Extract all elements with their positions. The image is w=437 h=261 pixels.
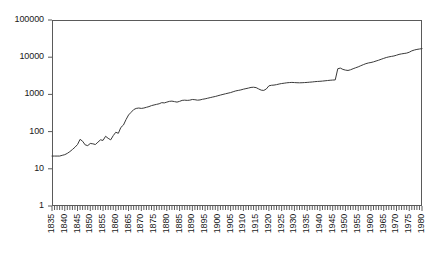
x-tick-label: 1865 bbox=[124, 214, 133, 233]
y-tick-label: 10000 bbox=[0, 52, 44, 61]
x-tick-label: 1970 bbox=[391, 214, 400, 233]
x-tick-label: 1845 bbox=[73, 214, 82, 233]
x-tick-label: 1960 bbox=[366, 214, 375, 233]
x-tick-label: 1900 bbox=[213, 214, 222, 233]
x-tick-label: 1935 bbox=[302, 214, 311, 233]
x-tick-label: 1870 bbox=[136, 214, 145, 233]
y-tick-label: 1000 bbox=[0, 89, 44, 98]
y-axis-ticks bbox=[48, 20, 52, 206]
x-tick-label: 1885 bbox=[175, 214, 184, 233]
x-tick-label: 1915 bbox=[251, 214, 260, 233]
x-tick-label: 1835 bbox=[47, 214, 56, 233]
x-tick-label: 1860 bbox=[111, 214, 120, 233]
x-tick-label: 1930 bbox=[289, 214, 298, 233]
y-tick-label: 100 bbox=[0, 127, 44, 136]
x-tick-label: 1895 bbox=[200, 214, 209, 233]
x-tick-label: 1940 bbox=[315, 214, 324, 233]
y-tick-label: 100000 bbox=[0, 15, 44, 24]
chart-container: 100000100001000100101 183518401845185018… bbox=[0, 0, 437, 261]
x-tick-label: 1945 bbox=[328, 214, 337, 233]
x-tick-label: 1925 bbox=[277, 214, 286, 233]
x-tick-label: 1920 bbox=[264, 214, 273, 233]
data-series-line bbox=[52, 49, 422, 156]
x-tick-label: 1980 bbox=[417, 214, 426, 233]
x-tick-label: 1965 bbox=[379, 214, 388, 233]
x-tick-label: 1955 bbox=[353, 214, 362, 233]
x-tick-label: 1855 bbox=[98, 214, 107, 233]
x-tick-label: 1975 bbox=[404, 214, 413, 233]
x-tick-label: 1890 bbox=[187, 214, 196, 233]
x-tick-label: 1910 bbox=[238, 214, 247, 233]
x-tick-label: 1905 bbox=[226, 214, 235, 233]
x-axis-ticks bbox=[52, 206, 422, 211]
x-tick-label: 1950 bbox=[340, 214, 349, 233]
x-tick-label: 1880 bbox=[162, 214, 171, 233]
x-tick-label: 1840 bbox=[60, 214, 69, 233]
x-tick-label: 1875 bbox=[149, 214, 158, 233]
y-tick-label: 1 bbox=[0, 201, 44, 210]
y-tick-label: 10 bbox=[0, 164, 44, 173]
x-tick-label: 1850 bbox=[85, 214, 94, 233]
